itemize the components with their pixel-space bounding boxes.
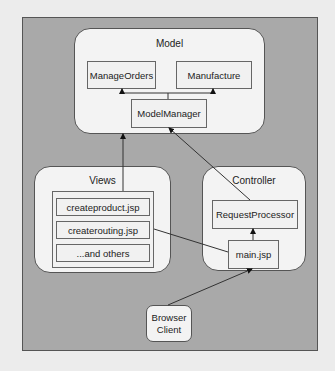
arrow-client-to-main xyxy=(168,269,252,305)
line-views-to-main xyxy=(154,229,228,252)
connectors xyxy=(0,0,335,371)
arrow-processor-to-manager xyxy=(169,128,250,200)
